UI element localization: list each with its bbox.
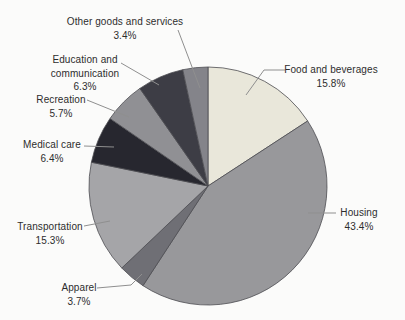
leader-line-education-and-communication: [121, 63, 159, 85]
consumer-spending-pie-figure: Food and beverages15.8%Housing43.4%Appar…: [0, 0, 405, 320]
pie-chart: [0, 0, 405, 320]
